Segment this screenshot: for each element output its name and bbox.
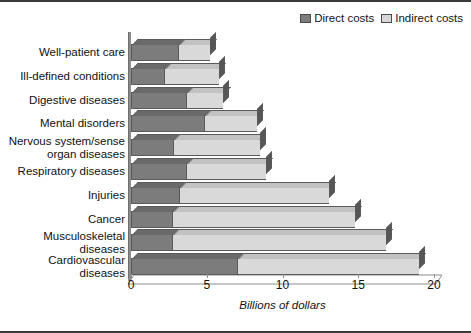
bar-segment-indirect-costs: [237, 258, 419, 275]
bar-row: Ill-defined conditions: [131, 68, 434, 85]
bar-segment-direct-costs: [131, 68, 164, 85]
bar-segment-direct-costs: [131, 258, 237, 275]
bar-segment-indirect-costs: [172, 234, 386, 251]
y-axis-category-label: Injuries: [0, 189, 125, 202]
x-axis-tick-label: 20: [427, 278, 440, 292]
bar-segment-top-face: [132, 253, 244, 259]
bar-segment-direct-costs: [131, 187, 179, 204]
stacked-bar: [131, 139, 260, 156]
plot-area: Well-patient careIll-defined conditionsD…: [131, 38, 434, 278]
x-axis-tick-label: 15: [352, 278, 365, 292]
bar-segment-top-face: [132, 110, 211, 116]
y-axis-category-label: Musculoskeletal diseases: [0, 230, 125, 255]
bar-segment-top-face: [238, 253, 426, 259]
x-axis-ticks: 05101520: [131, 278, 434, 298]
stacked-bar: [131, 92, 223, 109]
bar-end-face: [210, 32, 216, 55]
bar-segment-direct-costs: [131, 234, 172, 251]
legend-swatch-indirect-costs: [381, 14, 392, 23]
bar-end-face: [329, 175, 335, 198]
y-axis-category-label: Nervous system/sense organ diseases: [0, 135, 125, 160]
bar-segment-indirect-costs: [204, 115, 257, 132]
bar-segment-top-face: [132, 158, 193, 164]
stacked-bar: [131, 187, 329, 204]
bar-segment-indirect-costs: [186, 92, 224, 109]
stacked-bar: [131, 234, 386, 251]
stacked-bar: [131, 115, 257, 132]
bar-segment-top-face: [165, 63, 226, 69]
bar-segment-direct-costs: [131, 92, 186, 109]
bar-segment-indirect-costs: [173, 139, 259, 156]
bar-end-face: [266, 151, 272, 174]
bar-segment-indirect-costs: [178, 44, 210, 61]
bar-row: Nervous system/sense organ diseases: [131, 139, 434, 156]
stacked-bar: [131, 163, 266, 180]
y-axis-category-label: Mental disorders: [0, 117, 125, 130]
legend-entry-indirect-costs: Indirect costs: [381, 12, 463, 24]
y-axis-category-label: Cancer: [0, 213, 125, 226]
bar-segment-top-face: [132, 182, 186, 188]
bar-segment-indirect-costs: [179, 187, 329, 204]
stacked-bar: [131, 44, 210, 61]
chart-legend: Direct costs Indirect costs: [300, 12, 463, 24]
bar-segment-direct-costs: [131, 211, 172, 228]
bar-row: Digestive diseases: [131, 92, 434, 109]
bar-segment-direct-costs: [131, 163, 186, 180]
legend-label-direct-costs: Direct costs: [314, 12, 374, 24]
bar-segment-indirect-costs: [172, 211, 355, 228]
bar-segment-top-face: [173, 229, 393, 235]
bar-end-face: [223, 80, 229, 103]
bar-segment-top-face: [187, 158, 273, 164]
stacked-bar: [131, 258, 419, 275]
x-axis-tick-label: 0: [128, 278, 135, 292]
bar-end-face: [260, 127, 266, 150]
bar-segment-direct-costs: [131, 115, 204, 132]
y-axis-category-label: Digestive diseases: [0, 94, 125, 107]
bar-row: Injuries: [131, 187, 434, 204]
legend-swatch-direct-costs: [300, 14, 311, 23]
bar-segment-direct-costs: [131, 44, 178, 61]
bar-segment-top-face: [180, 182, 336, 188]
x-axis-tick-label: 10: [276, 278, 289, 292]
y-axis-category-label: Ill-defined conditions: [0, 70, 125, 83]
bar-row: Mental disorders: [131, 115, 434, 132]
bar-row: Well-patient care: [131, 44, 434, 61]
bar-segment-top-face: [205, 110, 264, 116]
chart-figure: Direct costs Indirect costs Well-patient…: [0, 0, 471, 333]
bar-row: Respiratory diseases: [131, 163, 434, 180]
bar-row: Cardiovascular diseases: [131, 258, 434, 275]
bar-end-face: [419, 246, 425, 269]
x-axis-title: Billions of dollars: [131, 299, 434, 311]
legend-label-indirect-costs: Indirect costs: [395, 12, 463, 24]
stacked-bar: [131, 68, 219, 85]
bar-segment-indirect-costs: [186, 163, 266, 180]
bar-segment-indirect-costs: [164, 68, 219, 85]
y-axis-category-label: Respiratory diseases: [0, 165, 125, 178]
bar-segment-top-face: [173, 206, 362, 212]
bar-end-face: [257, 103, 263, 126]
bar-row: Musculoskeletal diseases: [131, 234, 434, 251]
bar-segment-top-face: [174, 134, 266, 140]
legend-entry-direct-costs: Direct costs: [300, 12, 374, 24]
y-axis-category-label: Well-patient care: [0, 46, 125, 59]
stacked-bar: [131, 211, 355, 228]
y-axis-category-label: Cardiovascular diseases: [0, 254, 125, 279]
x-axis-tick-label: 5: [203, 278, 210, 292]
bar-segment-direct-costs: [131, 139, 173, 156]
bar-end-face: [386, 222, 392, 245]
bar-segment-top-face: [132, 87, 193, 93]
bar-end-face: [355, 199, 361, 222]
